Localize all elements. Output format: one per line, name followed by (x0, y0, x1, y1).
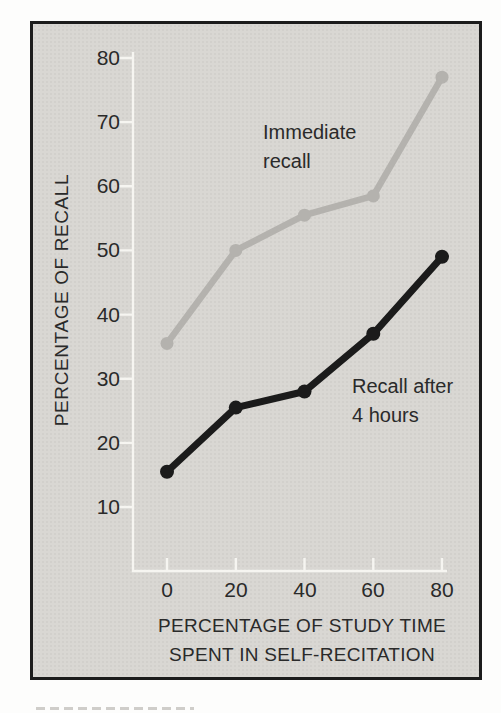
x-tick-label: 60 (343, 578, 403, 602)
y-tick-label: 70 (78, 110, 120, 134)
x-tick-label: 20 (206, 578, 266, 602)
x-axis-title: PERCENTAGE OF STUDY TIME SPENT IN SELF-R… (142, 611, 462, 669)
series-annotation-line: Immediate (263, 118, 356, 147)
x-axis-title-line1: PERCENTAGE OF STUDY TIME (142, 611, 462, 640)
figure-page: PERCENTAGE OF RECALL PERCENTAGE OF STUDY… (0, 0, 501, 713)
series-annotation-line: 4 hours (352, 401, 453, 430)
y-axis-title: PERCENTAGE OF RECALL (51, 174, 73, 426)
y-tick-label: 40 (78, 303, 120, 327)
y-tick-label: 20 (78, 431, 120, 455)
x-tick-label: 80 (412, 578, 472, 602)
y-tick-label: 60 (78, 174, 120, 198)
series-annotation-immediate-recall: Immediate recall (263, 118, 356, 176)
y-tick-label: 30 (78, 367, 120, 391)
series-annotation-line: Recall after (352, 372, 453, 401)
x-tick-label: 40 (275, 578, 335, 602)
x-tick-label: 0 (137, 578, 197, 602)
y-tick-label: 10 (78, 495, 120, 519)
series-annotation-recall-after-4-hours: Recall after 4 hours (352, 372, 453, 430)
y-tick-label: 80 (78, 46, 120, 70)
y-tick-label: 50 (78, 238, 120, 262)
scan-artifact-cropped-caption (36, 707, 194, 710)
series-annotation-line: recall (263, 147, 356, 176)
x-axis-title-line2: SPENT IN SELF-RECITATION (142, 640, 462, 669)
